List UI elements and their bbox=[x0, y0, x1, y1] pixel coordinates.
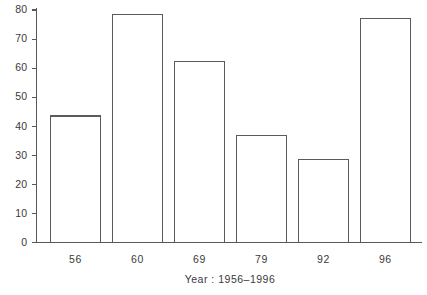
y-axis-tick-label: 30 bbox=[15, 149, 27, 161]
bar-chart-container: 01020304050607080 566069799296 Year : 19… bbox=[0, 0, 427, 295]
x-axis-tick-label: 92 bbox=[317, 253, 330, 265]
y-axis-tick-label: 0 bbox=[21, 236, 27, 248]
bar bbox=[175, 61, 225, 242]
y-axis-tick-label: 40 bbox=[15, 120, 27, 132]
bar bbox=[299, 160, 349, 243]
bar bbox=[237, 136, 287, 243]
bar bbox=[51, 116, 101, 242]
y-axis-tick-label: 70 bbox=[15, 32, 27, 44]
y-axis-tick-label: 80 bbox=[15, 3, 27, 15]
bar-chart-figure: 01020304050607080 566069799296 Year : 19… bbox=[0, 0, 427, 295]
y-axis-tick-labels: 01020304050607080 bbox=[15, 3, 27, 248]
bar bbox=[361, 19, 411, 243]
x-axis-tick-label: 69 bbox=[193, 253, 206, 265]
y-axis-tick-label: 10 bbox=[15, 207, 27, 219]
x-axis-tick-label: 96 bbox=[379, 253, 392, 265]
x-axis-caption: Year : 1956–1996 bbox=[185, 273, 276, 285]
y-axis-tick-label: 50 bbox=[15, 90, 27, 102]
x-axis-tick-label: 56 bbox=[69, 253, 82, 265]
x-axis-tick-label: 60 bbox=[131, 253, 144, 265]
bar bbox=[113, 14, 163, 242]
y-axis-tick-label: 60 bbox=[15, 61, 27, 73]
y-axis-tick-label: 20 bbox=[15, 178, 27, 190]
x-axis-tick-label: 79 bbox=[255, 253, 268, 265]
